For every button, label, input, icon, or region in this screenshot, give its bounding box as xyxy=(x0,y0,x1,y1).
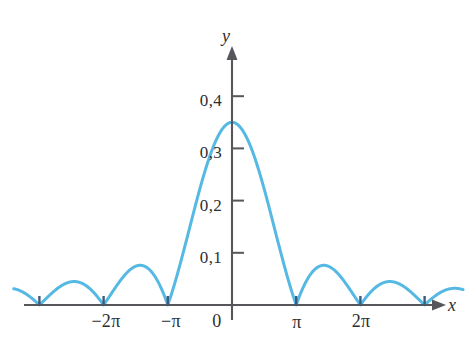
x-tick-label-minus-pi: −π xyxy=(161,311,181,331)
y-tick-label-01: 0,1 xyxy=(200,248,222,267)
sinc-absolute-value-plot: 0,4 0,3 0,2 0,1 −2π −π π 2π 0 y x xyxy=(0,0,468,342)
y-axis-arrow-icon xyxy=(227,46,238,60)
x-tick-label-pi: π xyxy=(292,312,301,332)
x-axis-label: x xyxy=(447,295,456,315)
y-tick-label-04: 0,4 xyxy=(200,91,222,110)
y-tick-label-02: 0,2 xyxy=(200,196,222,215)
curve-sinc-abs xyxy=(14,122,463,305)
x-tick-label-minus-2pi: −2π xyxy=(91,311,120,331)
x-tick-label-2pi: 2π xyxy=(352,311,371,331)
y-axis-label: y xyxy=(220,26,230,46)
figure-canvas: 0,4 0,3 0,2 0,1 −2π −π π 2π 0 y x xyxy=(0,0,468,342)
origin-label: 0 xyxy=(212,311,221,331)
y-tick-group xyxy=(232,96,244,253)
y-tick-label-03: 0,3 xyxy=(200,143,222,162)
x-axis-arrow-icon xyxy=(432,300,446,311)
